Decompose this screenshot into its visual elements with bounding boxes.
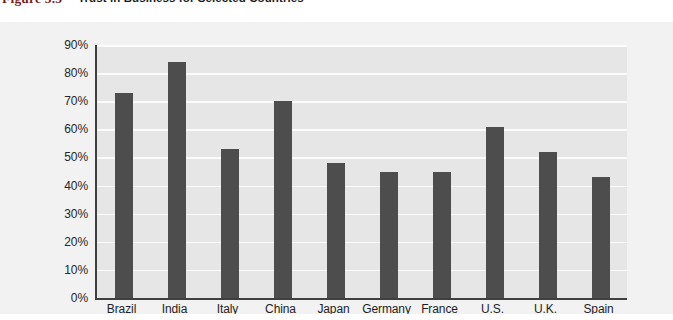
figure-caption: Figure 5.5 Trust in Business for Selecte…	[0, 0, 673, 11]
y-axis-tick-label: 10%	[0, 263, 88, 277]
bar	[592, 177, 610, 298]
y-axis-tick-label: 60%	[0, 122, 88, 136]
bar	[327, 163, 345, 298]
figure-number: Figure 5.5	[2, 0, 62, 7]
bar	[539, 152, 557, 298]
y-axis-tick-label: 90%	[0, 38, 88, 52]
bar	[433, 172, 451, 299]
y-axis-tick-label: 80%	[0, 66, 88, 80]
figure-title: Trust in Business for Selected Countries	[78, 0, 304, 4]
chart-canvas: 0%10%20%30%40%50%60%70%80%90% BrazilIndi…	[0, 22, 673, 320]
y-axis-tick-label: 70%	[0, 94, 88, 108]
bar	[486, 127, 504, 298]
y-axis-tick-label: 50%	[0, 150, 88, 164]
bar	[274, 101, 292, 298]
bar	[115, 93, 133, 298]
bar	[221, 149, 239, 298]
page-edge	[0, 314, 673, 320]
y-axis-tick-label: 0%	[0, 291, 88, 305]
bar	[380, 172, 398, 299]
y-axis-tick-label: 20%	[0, 235, 88, 249]
bar-series	[97, 45, 627, 298]
plot-area	[95, 45, 627, 300]
y-axis-tick-label: 40%	[0, 179, 88, 193]
y-axis: 0%10%20%30%40%50%60%70%80%90%	[0, 45, 88, 298]
y-axis-tick-label: 30%	[0, 207, 88, 221]
bar	[168, 62, 186, 298]
figure-container: Figure 5.5 Trust in Business for Selecte…	[0, 0, 673, 320]
